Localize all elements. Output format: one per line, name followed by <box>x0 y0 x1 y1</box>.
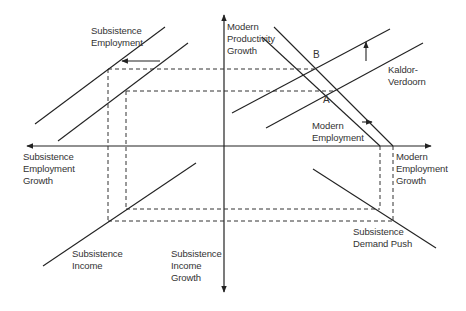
dashed-projections <box>108 69 393 221</box>
label-subsistence-income-curve: Subsistence Income <box>72 248 123 272</box>
label-subsistence-income-growth: Subsistence Income Growth <box>171 248 222 284</box>
label-point-a: A <box>323 94 330 106</box>
label-point-b: B <box>313 49 320 61</box>
label-modern-employment-curve: Modern Employment <box>312 120 364 144</box>
label-modern-productivity-growth: Modern Productivity Growth <box>227 21 275 57</box>
label-kaldor-verdoorn: Kaldor- Verdoorn <box>388 64 426 88</box>
label-subsistence-demand-push: Subsistence Demand Push <box>353 226 412 250</box>
label-subsistence-employment-curve: Subsistence Employment <box>91 25 143 49</box>
label-modern-employment-growth: Modern Employment Growth <box>396 151 448 187</box>
label-subsistence-employment-growth: Subsistence Employment Growth <box>23 151 75 187</box>
